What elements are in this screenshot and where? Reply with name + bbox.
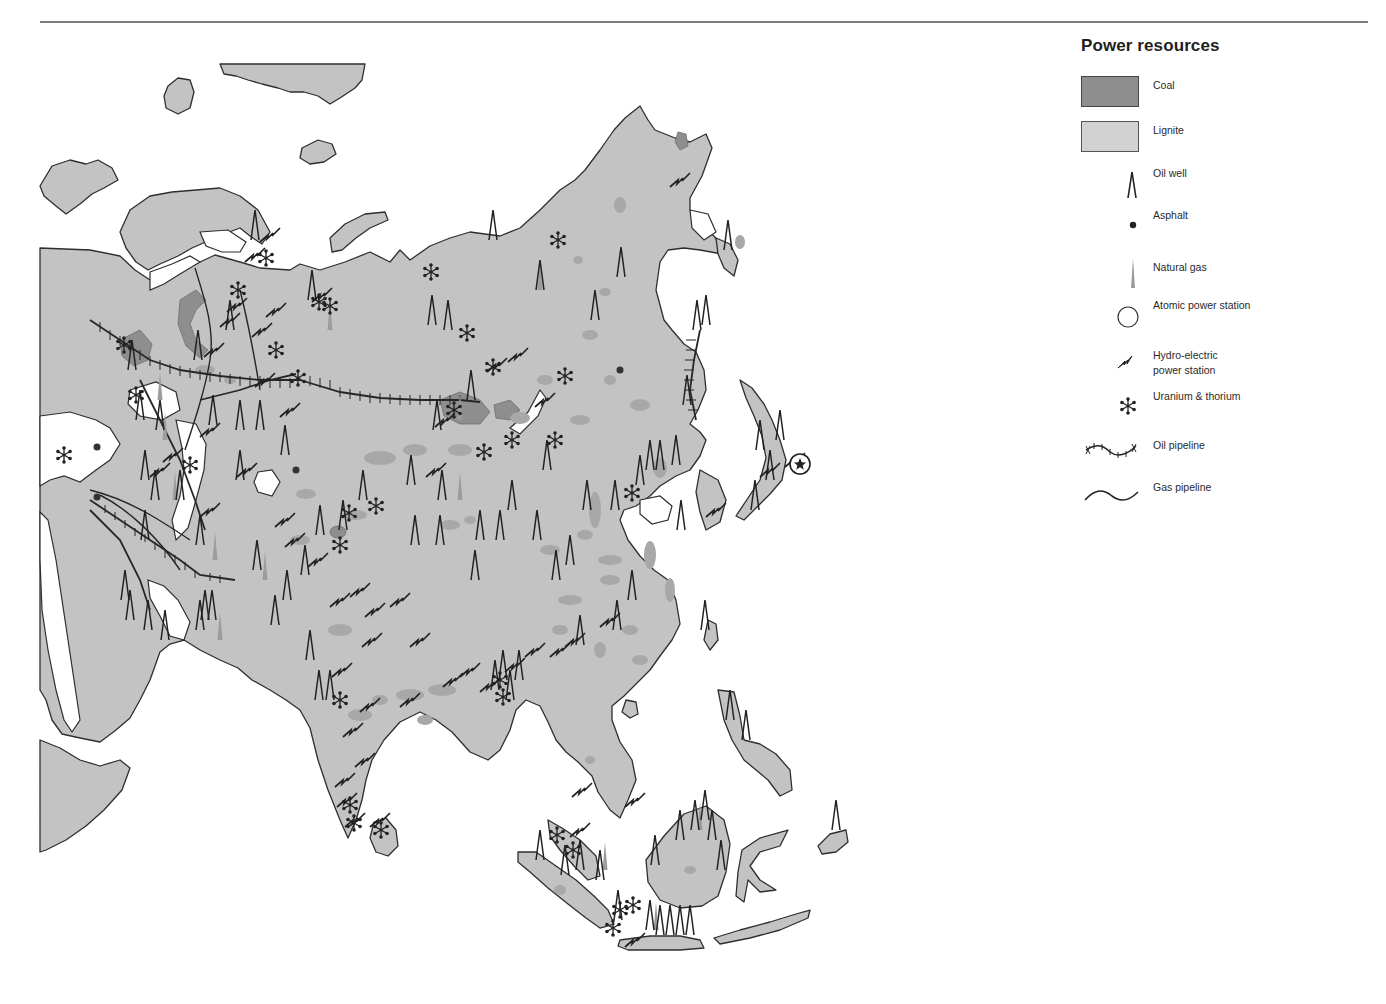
legend-item-oil-well: Oil well	[1080, 166, 1320, 206]
coal-karaganda	[330, 526, 346, 538]
landmass-hainan	[622, 700, 638, 718]
landmass-philippines	[718, 690, 792, 796]
coal-area-swatch	[1080, 76, 1140, 116]
natural-gas-icon	[603, 842, 608, 870]
landmass-africa-horn	[40, 740, 130, 852]
oil-well-icon	[1080, 166, 1140, 206]
landmass-scandinavia	[120, 188, 270, 270]
legend-item-natural-gas: Natural gas	[1080, 254, 1320, 294]
oil-well-icon	[701, 600, 709, 630]
lignite-area-swatch	[1080, 121, 1140, 161]
landmass-sulawesi	[736, 830, 788, 902]
legend-label-natural-gas: Natural gas	[1153, 260, 1207, 275]
oil-pipeline-icon	[1080, 436, 1140, 476]
legend-label-atomic: Atomic power station	[1153, 298, 1250, 313]
landmass-java	[618, 936, 704, 950]
uranium-snowflake-icon	[1080, 388, 1140, 428]
legend-label-asphalt: Asphalt	[1153, 208, 1188, 223]
atomic-station-circle-icon	[790, 454, 810, 474]
asphalt-dot-icon	[1080, 208, 1140, 248]
natural-gas-icon	[1080, 254, 1140, 294]
lightning-bolt-icon	[1080, 348, 1140, 388]
asphalt-dot-icon	[617, 367, 624, 374]
lightning-bolt-icon	[570, 823, 590, 837]
landmass-layer	[40, 64, 848, 950]
legend-label-lignite: Lignite	[1153, 123, 1184, 138]
oil-well-icon	[702, 295, 710, 325]
oil-well-icon	[646, 900, 654, 930]
sea-white	[200, 230, 246, 252]
oil-well-icon	[676, 905, 684, 935]
asphalt-dot-icon	[94, 494, 101, 501]
legend-label-oil-well: Oil well	[1153, 166, 1187, 181]
lightning-bolt-icon	[572, 783, 592, 797]
landmass-korea	[696, 470, 726, 530]
legend-item-hydro: Hydro-electric power station	[1080, 348, 1320, 388]
legend-item-uranium: Uranium & thorium	[1080, 388, 1320, 428]
legend-label-coal: Coal	[1153, 78, 1175, 93]
legend-title: Power resources	[1081, 36, 1320, 56]
oil-well-icon	[742, 710, 750, 740]
atomic-power-station-symbols	[790, 454, 810, 474]
gas-pipeline-icon	[1080, 478, 1140, 518]
sea-yellow	[640, 496, 672, 524]
atomic-station-circle-icon	[1080, 298, 1140, 338]
landmass-taiwan	[704, 620, 718, 650]
oil-well-icon	[776, 410, 784, 440]
landmass-sakhalin	[716, 238, 738, 276]
landmass-lesser-sunda	[714, 910, 810, 944]
legend-label-hydro: Hydro-electric power station	[1153, 348, 1218, 378]
oil-well-icon	[666, 905, 674, 935]
landmass-iceland	[164, 78, 194, 114]
oil-well-icon	[693, 300, 701, 330]
legend-label-uranium: Uranium & thorium	[1153, 389, 1241, 404]
legend-item-oil-pipeline: Oil pipeline	[1080, 436, 1320, 476]
legend-item-coal: Coal	[1080, 76, 1320, 116]
legend-label-oil-pipeline: Oil pipeline	[1153, 438, 1205, 453]
landmass-svalbard	[300, 140, 336, 164]
asphalt-dot-icon	[94, 444, 101, 451]
landmass-japan	[736, 380, 786, 520]
oil-well-icon	[677, 500, 685, 530]
legend-item-atomic: Atomic power station	[1080, 298, 1320, 338]
landmass-british-isles	[40, 160, 118, 214]
landmass-greenland	[220, 64, 365, 104]
legend-item-lignite: Lignite	[1080, 121, 1320, 161]
asphalt-dot-icon	[293, 467, 300, 474]
legend-panel: Power resources Coal Lignite Oil well As…	[1080, 36, 1320, 68]
legend-item-gas-pipeline: Gas pipeline	[1080, 478, 1320, 518]
legend-item-asphalt: Asphalt	[1080, 208, 1320, 248]
uranium-snowflake-icon	[625, 896, 641, 914]
legend-label-gas-pipeline: Gas pipeline	[1153, 480, 1211, 495]
landmass-novaya-zemlya	[330, 212, 388, 252]
landmass-moluccas	[818, 830, 848, 854]
oil-well-icon	[832, 800, 840, 830]
oil-well-icon	[686, 905, 694, 935]
